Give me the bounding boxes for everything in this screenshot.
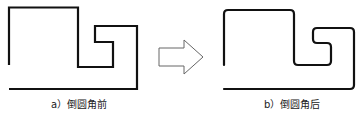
caption-before: a）倒圆角前 bbox=[51, 96, 107, 111]
sharp-corner-profile bbox=[9, 8, 137, 90]
figure-canvas: a）倒圆角前 b）倒圆角后 bbox=[0, 0, 362, 114]
caption-after: b）倒圆角后 bbox=[264, 96, 320, 111]
rounded-corner-profile bbox=[224, 10, 354, 89]
hollow-right-arrow-icon bbox=[159, 40, 203, 74]
